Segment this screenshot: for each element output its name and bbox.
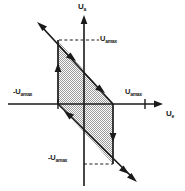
hysteresis-diagram: Ua Ue Uamax -Uamax Uamax -Uamax xyxy=(0,0,185,191)
y-axis-label: Ua xyxy=(78,3,86,11)
hysteresis-region xyxy=(58,40,113,164)
lower-reference-label: -Uamax xyxy=(48,154,67,162)
upper-reference-label: Uamax xyxy=(100,35,117,43)
x-tick-positive-label: Uamax xyxy=(125,88,142,96)
x-axis-label: Ue xyxy=(166,110,174,118)
x-tick-negative-label: -Uamax xyxy=(13,88,32,96)
